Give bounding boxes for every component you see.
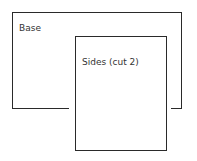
base-right-edge xyxy=(181,12,182,109)
base-bottom-edge-right xyxy=(171,108,182,109)
sides-label: Sides (cut 2) xyxy=(82,57,139,67)
base-left-edge xyxy=(12,12,13,109)
base-label: Base xyxy=(19,23,41,33)
base-bottom-edge-left xyxy=(12,108,69,109)
base-top-edge xyxy=(12,12,182,13)
sides-rectangle: Sides (cut 2) xyxy=(75,36,167,151)
